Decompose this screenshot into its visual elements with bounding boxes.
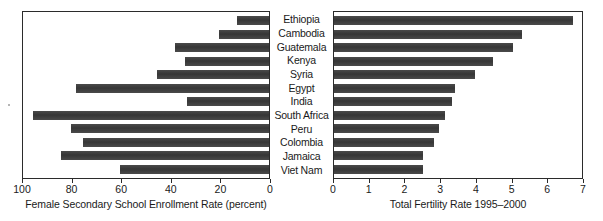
country-label: Guatemala xyxy=(270,43,333,52)
left-bar-row xyxy=(23,111,269,120)
left-bar-row xyxy=(23,57,269,66)
fertility-bar xyxy=(334,151,423,160)
country-label: Syria xyxy=(270,70,333,79)
left-chart-panel xyxy=(22,11,270,179)
enrollment-bar xyxy=(175,43,269,52)
fertility-bar xyxy=(334,124,439,133)
right-bar-row xyxy=(334,16,582,25)
left-bar-row xyxy=(23,70,269,79)
country-label: Cambodia xyxy=(270,29,333,38)
enrollment-bar xyxy=(61,151,269,160)
right-bar-row xyxy=(334,165,582,174)
right-bar-row xyxy=(334,138,582,147)
enrollment-bar xyxy=(219,30,269,39)
left-bar-row xyxy=(23,43,269,52)
country-label: Colombia xyxy=(270,138,333,147)
right-bar-row xyxy=(334,43,582,52)
left-bar-row xyxy=(23,16,269,25)
axis-tick-label: 4 xyxy=(473,183,479,195)
axis-tick-label: 0 xyxy=(330,183,336,195)
axis-tick-label: 100 xyxy=(13,183,31,195)
axis-tick-label: 0 xyxy=(267,183,273,195)
fertility-bar xyxy=(334,111,445,120)
country-label: India xyxy=(270,97,333,106)
country-label-column: EthiopiaCambodiaGuatemalaKenyaSyriaEgypt… xyxy=(270,11,333,179)
left-bar-row xyxy=(23,84,269,93)
axis-tick-label: 7 xyxy=(580,183,586,195)
country-label: Egypt xyxy=(270,84,333,93)
fertility-bar xyxy=(334,43,513,52)
enrollment-bar xyxy=(185,57,269,66)
fertility-bar xyxy=(334,138,434,147)
left-bar-row xyxy=(23,30,269,39)
axis-tick-label: 5 xyxy=(509,183,515,195)
country-label: Jamaica xyxy=(270,152,333,161)
left-bar-row xyxy=(23,124,269,133)
enrollment-bar xyxy=(157,70,269,79)
axis-tick-label: 6 xyxy=(544,183,550,195)
country-label: Ethiopia xyxy=(270,15,333,24)
fertility-bar xyxy=(334,70,475,79)
fertility-bar xyxy=(334,57,493,66)
enrollment-bar xyxy=(120,165,269,174)
country-label: Kenya xyxy=(270,56,333,65)
enrollment-bar xyxy=(187,97,269,106)
left-axis-title: Female Secondary School Enrollment Rate … xyxy=(22,198,270,211)
left-bar-row xyxy=(23,97,269,106)
country-label: Viet Nam xyxy=(270,166,333,175)
left-bar-row xyxy=(23,151,269,160)
right-chart-panel xyxy=(333,11,583,179)
enrollment-bar xyxy=(237,16,269,25)
left-bar-row xyxy=(23,165,269,174)
right-bar-row xyxy=(334,124,582,133)
right-bar-rows xyxy=(334,12,582,178)
enrollment-bar xyxy=(83,138,269,147)
fertility-bar xyxy=(334,84,455,93)
left-bar-rows xyxy=(23,12,269,178)
country-label: Peru xyxy=(270,125,333,134)
butterfly-bar-chart: EthiopiaCambodiaGuatemalaKenyaSyriaEgypt… xyxy=(0,0,603,221)
right-bar-row xyxy=(334,111,582,120)
scan-speck xyxy=(8,104,10,106)
right-bar-row xyxy=(334,84,582,93)
axis-tick-label: 20 xyxy=(215,183,227,195)
right-bar-row xyxy=(334,70,582,79)
right-bar-row xyxy=(334,97,582,106)
axis-tick-label: 3 xyxy=(437,183,443,195)
axis-tick-label: 60 xyxy=(115,183,127,195)
enrollment-bar xyxy=(76,84,269,93)
enrollment-bar xyxy=(71,124,269,133)
axis-tick-label: 2 xyxy=(402,183,408,195)
fertility-bar xyxy=(334,30,522,39)
axis-tick-label: 40 xyxy=(165,183,177,195)
right-axis-title: Total Fertility Rate 1995–2000 xyxy=(333,198,583,211)
fertility-bar xyxy=(334,165,423,174)
axis-tick-label: 1 xyxy=(366,183,372,195)
fertility-bar xyxy=(334,97,452,106)
right-bar-row xyxy=(334,151,582,160)
right-bar-row xyxy=(334,30,582,39)
axis-tick-label: 80 xyxy=(66,183,78,195)
enrollment-bar xyxy=(33,111,269,120)
right-bar-row xyxy=(334,57,582,66)
fertility-bar xyxy=(334,16,573,25)
left-bar-row xyxy=(23,138,269,147)
country-label: South Africa xyxy=(270,111,333,120)
